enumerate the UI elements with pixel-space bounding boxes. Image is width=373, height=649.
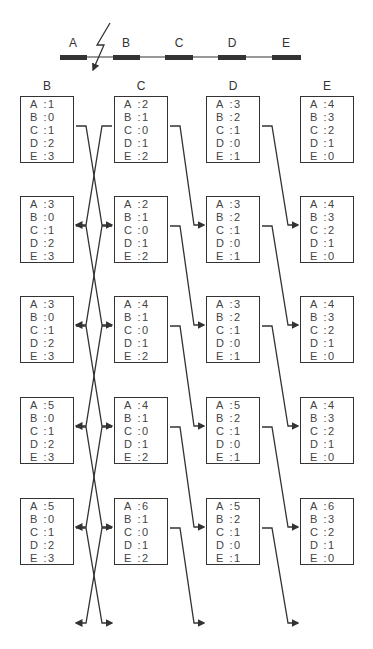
table-row: B:3 xyxy=(301,513,353,526)
table-row: C:1 xyxy=(21,224,73,237)
table-row: E:2 xyxy=(115,150,167,163)
destination-label: A xyxy=(30,298,40,311)
table-row: A:2 xyxy=(115,198,167,211)
destination-label: C xyxy=(30,224,40,237)
table-row: D:0 xyxy=(207,539,259,552)
distance-value: 5 xyxy=(234,500,246,513)
destination-label: E xyxy=(30,350,40,363)
table-row: A:4 xyxy=(115,298,167,311)
table-row: B:0 xyxy=(21,412,73,425)
distance-value: 2 xyxy=(142,198,154,211)
lightning-bolt-icon xyxy=(93,23,110,70)
table-row: C:1 xyxy=(207,526,259,539)
distance-value: 3 xyxy=(48,451,60,464)
destination-label: D xyxy=(310,539,320,552)
destination-label: B xyxy=(124,412,134,425)
distance-value: 1 xyxy=(48,425,60,438)
distance-value: 0 xyxy=(48,412,60,425)
distance-value: 1 xyxy=(234,324,246,337)
distance-value: 2 xyxy=(48,438,60,451)
table-row: B:3 xyxy=(301,412,353,425)
table-row: D:2 xyxy=(21,137,73,150)
distance-value: 2 xyxy=(142,451,154,464)
distance-value: 3 xyxy=(328,412,340,425)
table-row: A:6 xyxy=(115,500,167,513)
table-row: A:2 xyxy=(115,98,167,111)
distance-value: 3 xyxy=(328,513,340,526)
link-segment-d xyxy=(218,55,246,60)
routing-table-c-step-5: A:6B:1C:0D:1E:2 xyxy=(114,498,168,565)
routing-table-d-step-1: A:3B:2C:1D:0E:1 xyxy=(206,96,260,163)
distance-value: 0 xyxy=(142,526,154,539)
table-row: C:1 xyxy=(21,324,73,337)
link-segment-e xyxy=(272,55,301,60)
destination-label: E xyxy=(216,552,226,565)
routing-table-b-step-4: A:5B:0C:1D:2E:3 xyxy=(20,397,74,464)
table-row: E:0 xyxy=(301,552,353,565)
link-segment-a xyxy=(60,55,87,60)
distance-value: 2 xyxy=(48,539,60,552)
distance-value: 0 xyxy=(234,137,246,150)
table-row: C:1 xyxy=(21,425,73,438)
table-row: E:2 xyxy=(115,451,167,464)
destination-label: C xyxy=(124,324,134,337)
distance-value: 2 xyxy=(142,98,154,111)
table-row: C:0 xyxy=(115,324,167,337)
table-row: A:4 xyxy=(301,298,353,311)
destination-label: D xyxy=(216,137,226,150)
destination-label: B xyxy=(216,211,226,224)
update-flow-lines xyxy=(76,126,298,623)
destination-label: D xyxy=(216,337,226,350)
table-row: E:1 xyxy=(207,552,259,565)
routing-table-e-step-2: A:4B:3C:2D:1E:0 xyxy=(300,196,354,263)
table-row: E:2 xyxy=(115,250,167,263)
destination-label: A xyxy=(216,500,226,513)
table-row: D:0 xyxy=(207,237,259,250)
destination-label: B xyxy=(216,311,226,324)
destination-label: C xyxy=(216,224,226,237)
destination-label: C xyxy=(30,324,40,337)
destination-label: E xyxy=(216,150,226,163)
distance-value: 1 xyxy=(234,150,246,163)
destination-label: A xyxy=(30,399,40,412)
table-row: E:2 xyxy=(115,350,167,363)
distance-value: 3 xyxy=(48,250,60,263)
table-row: D:1 xyxy=(115,237,167,250)
routing-table-b-step-5: A:5B:0C:1D:2E:3 xyxy=(20,498,74,565)
distance-value: 1 xyxy=(328,337,340,350)
distance-value: 5 xyxy=(48,399,60,412)
table-row: B:2 xyxy=(207,211,259,224)
destination-label: C xyxy=(310,324,320,337)
table-row: B:3 xyxy=(301,311,353,324)
distance-value: 0 xyxy=(234,539,246,552)
destination-label: C xyxy=(30,425,40,438)
table-row: C:0 xyxy=(115,124,167,137)
routing-table-d-step-2: A:3B:2C:1D:0E:1 xyxy=(206,196,260,263)
routing-table-e-step-3: A:4B:3C:2D:1E:0 xyxy=(300,296,354,363)
distance-value: 1 xyxy=(234,526,246,539)
destination-label: B xyxy=(124,111,134,124)
distance-value: 0 xyxy=(142,224,154,237)
distance-value: 0 xyxy=(328,350,340,363)
table-row: E:0 xyxy=(301,250,353,263)
distance-value: 3 xyxy=(48,552,60,565)
distance-value: 0 xyxy=(234,237,246,250)
table-row: B:2 xyxy=(207,513,259,526)
distance-value: 3 xyxy=(234,98,246,111)
distance-value: 1 xyxy=(328,438,340,451)
table-row: C:2 xyxy=(301,526,353,539)
distance-value: 2 xyxy=(142,350,154,363)
table-row: B:1 xyxy=(115,111,167,124)
table-row: E:3 xyxy=(21,250,73,263)
distance-value: 1 xyxy=(142,513,154,526)
table-row: E:3 xyxy=(21,552,73,565)
distance-value: 2 xyxy=(48,237,60,250)
distance-value: 0 xyxy=(48,311,60,324)
distance-value: 3 xyxy=(48,150,60,163)
destination-label: A xyxy=(310,98,320,111)
destination-label: A xyxy=(216,198,226,211)
table-row: B:2 xyxy=(207,412,259,425)
distance-value: 3 xyxy=(234,298,246,311)
destination-label: E xyxy=(124,350,134,363)
distance-value: 2 xyxy=(234,412,246,425)
